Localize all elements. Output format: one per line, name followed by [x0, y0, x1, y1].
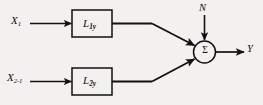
- diagram-canvas: [0, 0, 263, 105]
- input-1-label: X1: [11, 15, 21, 26]
- input-2-label: X2-1: [7, 72, 22, 83]
- block-2-label: L2y: [83, 75, 96, 86]
- block-1-label: L1y: [83, 18, 96, 29]
- input-1-subscript: 1: [18, 20, 21, 27]
- input-1-base: X: [11, 14, 18, 26]
- input-2-subscript: 2-1: [14, 77, 22, 84]
- output-label: Y: [247, 44, 253, 55]
- block-2-subscript: 2y: [89, 80, 96, 88]
- summation-symbol: Σ: [199, 46, 211, 56]
- noise-label: N: [199, 3, 206, 14]
- block-diagram: X1 X2-1 L1y L2y N Σ Y: [0, 0, 263, 105]
- block-1-subscript: 1y: [89, 23, 96, 31]
- upper-branch-to-summer: [152, 24, 195, 46]
- input-2-base: X: [7, 71, 14, 83]
- lower-branch-to-summer: [152, 59, 195, 82]
